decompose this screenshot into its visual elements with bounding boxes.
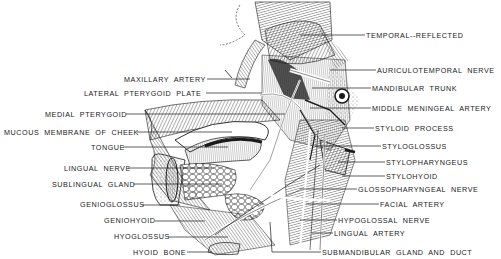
- anatomy-diagram: MAXILLARY ARTERY LATERAL PTERYGOID PLATE…: [0, 0, 501, 259]
- label-stylopharyngeus: STYLOPHARYNGEUS: [386, 158, 468, 167]
- label-mucous-membrane-of-cheek: MUCOUS MEMBRANE OF CHEEK: [4, 128, 139, 137]
- label-sublingual-gland: SUBLINGUAL GLAND: [52, 180, 135, 189]
- label-mandibular-trunk: MANDIBULAR TRUNK: [372, 84, 457, 93]
- label-styloglossus: STYLOGLOSSUS: [382, 142, 447, 151]
- label-submandibular-gland-and-duct: SUBMANDIBULAR GLAND AND DUCT: [322, 248, 472, 257]
- label-genioglossus: GENIOGLOSSUS: [80, 200, 145, 209]
- label-geniohyoid: GENIOHYOID: [104, 216, 155, 225]
- label-maxillary-artery: MAXILLARY ARTERY: [124, 75, 206, 84]
- label-styloid-process: STYLOID PROCESS: [375, 124, 454, 133]
- label-lingual-artery: LINGUAL ARTERY: [334, 229, 405, 238]
- label-auriculotemporal-nerve: AURICULOTEMPORAL NERVE: [377, 66, 495, 75]
- label-facial-artery: FACIAL ARTERY: [380, 200, 445, 209]
- label-tongue: TONGUE: [91, 143, 125, 152]
- label-hypoglossal-nerve: HYPOGLOSSAL NERVE: [338, 216, 430, 225]
- label-stylohyoid: STYLOHYOID: [386, 172, 438, 181]
- label-hyoglossus: HYOGLOSSUS: [114, 232, 170, 241]
- label-temporal-reflected: TEMPORAL--REFLECTED: [366, 31, 464, 40]
- label-glossopharyngeal-nerve: GLOSSOPHARYNGEAL NERVE: [358, 185, 478, 194]
- label-lingual-nerve: LINGUAL NERVE: [64, 164, 131, 173]
- label-medial-pterygoid: MEDIAL PTERYGOID: [45, 110, 127, 119]
- label-middle-meningeal-artery: MIDDLE MENINGEAL ARTERY: [372, 104, 491, 113]
- label-lateral-pterygoid-plate: LATERAL PTERYGOID PLATE: [84, 89, 201, 98]
- label-hyoid-bone: HYOID BONE: [133, 248, 186, 257]
